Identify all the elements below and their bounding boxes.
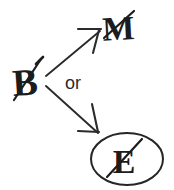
node-target-e: E (91, 133, 163, 185)
diagram-canvas: B M or E (0, 0, 174, 190)
connector-label-or: or (65, 73, 81, 93)
edge-lower-arrow (46, 86, 99, 133)
edge-upper-arrow (46, 29, 101, 76)
node-target-m: M (101, 9, 135, 48)
branching-diagram: B M or E (0, 0, 174, 190)
edge-lower-shaft (46, 86, 98, 133)
edge-upper-shaft (46, 31, 100, 76)
node-source-b: B (11, 57, 43, 104)
edge-lower-arrowhead-bottom (78, 131, 99, 132)
